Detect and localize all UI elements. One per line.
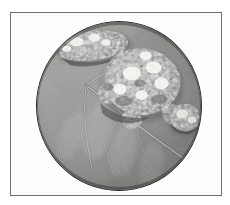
circular-photo-field (36, 21, 202, 191)
plate-frame (10, 12, 222, 196)
figure-root (0, 0, 230, 205)
leaf-photomicrograph (37, 22, 201, 190)
plate-caption (11, 189, 221, 195)
